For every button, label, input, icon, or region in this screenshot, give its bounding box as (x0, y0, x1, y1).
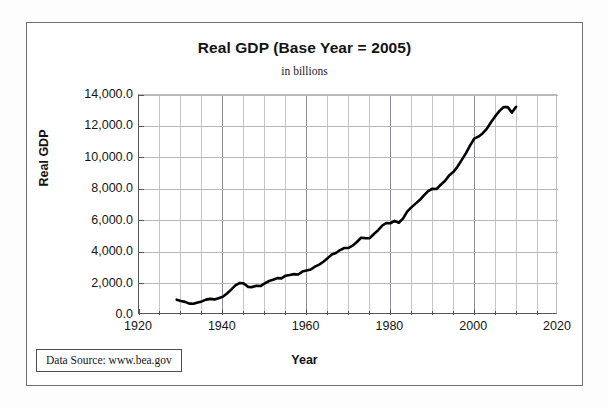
y-tick-label: 8,000.0 (41, 181, 133, 195)
data-source-note: Data Source: www.bea.gov (36, 349, 182, 372)
y-axis-ticks (139, 95, 144, 315)
vertical-minor-gridlines (160, 95, 537, 315)
x-tick-label: 2000 (438, 319, 508, 333)
y-tick-label: 4,000.0 (41, 244, 133, 258)
y-tick-label: 10,000.0 (41, 150, 133, 164)
y-tick-label: 14,000.0 (41, 87, 133, 101)
x-tick-label: 2020 (522, 319, 592, 333)
chart-subtitle: in billions (27, 65, 582, 77)
plot-area (138, 94, 557, 314)
x-tick-label: 1960 (271, 319, 341, 333)
chart-frame: Real GDP (Base Year = 2005) in billions … (26, 22, 583, 386)
chart-screenshot: Real GDP (Base Year = 2005) in billions … (0, 0, 608, 408)
x-axis-tick-labels: 192019401960198020002020 (138, 319, 557, 339)
x-tick-label: 1940 (187, 319, 257, 333)
x-tick-label: 1980 (354, 319, 424, 333)
y-tick-label: 6,000.0 (41, 213, 133, 227)
y-tick-label: 12,000.0 (41, 118, 133, 132)
gdp-data-line (177, 107, 516, 304)
chart-title: Real GDP (Base Year = 2005) (27, 39, 582, 57)
y-tick-label: 2,000.0 (41, 276, 133, 290)
plot-svg (139, 95, 558, 315)
y-axis-tick-labels: 0.02,000.04,000.06,000.08,000.010,000.01… (39, 94, 133, 314)
x-tick-label: 1920 (103, 319, 173, 333)
